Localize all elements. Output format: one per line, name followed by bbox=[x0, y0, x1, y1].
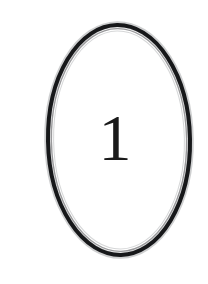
figure-canvas: 1 bbox=[0, 0, 208, 284]
oval-figure bbox=[0, 0, 208, 284]
background-plate bbox=[0, 0, 208, 284]
